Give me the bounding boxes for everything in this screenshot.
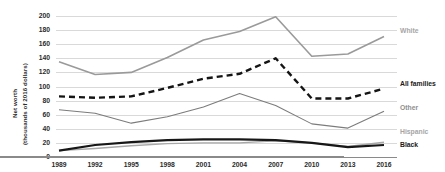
- y-tick-140: 140: [26, 54, 50, 61]
- series-label-white: White: [400, 27, 419, 34]
- series-label-other: Other: [400, 104, 418, 111]
- y-tick-60: 60: [26, 111, 50, 118]
- x-tick-1995: 1995: [111, 161, 151, 168]
- y-tick-100: 100: [26, 83, 50, 90]
- y-tick-80: 80: [26, 97, 50, 104]
- x-tick-2010: 2010: [292, 161, 332, 168]
- series-label-hispanic: Hispanic: [400, 128, 428, 135]
- x-tick-2007: 2007: [256, 161, 296, 168]
- plot-area: [56, 16, 397, 157]
- x-tick-2004: 2004: [220, 161, 260, 168]
- y-tick-120: 120: [26, 68, 50, 75]
- y-axis-title-line-1: Net worth: [11, 89, 18, 118]
- series-label-all-families: All families: [400, 80, 436, 87]
- x-tick-1998: 1998: [147, 161, 187, 168]
- x-tick-1992: 1992: [75, 161, 115, 168]
- x-tick-2016: 2016: [364, 161, 404, 168]
- y-tick-160: 160: [26, 40, 50, 47]
- y-tick-20: 20: [26, 139, 50, 146]
- series-line-all-families: [59, 58, 384, 98]
- y-tick-40: 40: [26, 125, 50, 132]
- series-label-black: Black: [400, 141, 418, 148]
- series-line-black: [59, 139, 384, 150]
- x-tick-1989: 1989: [39, 161, 79, 168]
- series-line-other: [59, 94, 384, 129]
- x-tick-2013: 2013: [328, 161, 368, 168]
- series-lines: [56, 16, 397, 157]
- series-line-white: [59, 17, 384, 75]
- y-tick-180: 180: [26, 26, 50, 33]
- x-tick-2001: 2001: [183, 161, 223, 168]
- x-axis-line: [0, 156, 344, 158]
- chart-figure: Net worth (thousands of 2016 dollars) 02…: [0, 0, 445, 172]
- y-axis-title-line-2: (thousands of 2016 dollars): [21, 63, 28, 145]
- y-tick-200: 200: [26, 12, 50, 19]
